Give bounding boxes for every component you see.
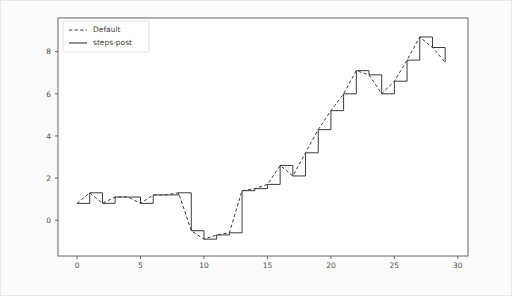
legend-label: Default xyxy=(93,25,120,34)
x-axis-ticks: 051015202530 xyxy=(75,256,463,270)
x-tick-label: 30 xyxy=(453,261,463,270)
x-tick-label: 25 xyxy=(390,261,400,270)
x-tick-label: 20 xyxy=(326,261,336,270)
y-axis-ticks: 02468 xyxy=(46,47,58,224)
y-tick-label: 2 xyxy=(46,174,51,183)
y-tick-label: 4 xyxy=(46,132,51,141)
x-tick-label: 10 xyxy=(199,261,209,270)
y-tick-label: 6 xyxy=(46,90,51,99)
plot-area-background xyxy=(58,18,468,256)
plot-svg: 051015202530 02468 Defaultsteps-post xyxy=(1,1,512,296)
x-tick-label: 15 xyxy=(263,261,273,270)
x-tick-label: 5 xyxy=(138,261,143,270)
figure-canvas: 051015202530 02468 Defaultsteps-post xyxy=(0,0,512,296)
y-tick-label: 8 xyxy=(46,47,51,56)
x-tick-label: 0 xyxy=(75,261,80,270)
legend: Defaultsteps-post xyxy=(63,21,149,52)
y-tick-label: 0 xyxy=(46,216,51,225)
legend-label: steps-post xyxy=(93,38,132,47)
